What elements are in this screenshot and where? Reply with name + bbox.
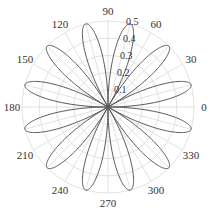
grid-spoke (47, 107, 108, 168)
angle-label: 180 (4, 101, 21, 113)
angle-label: 30 (186, 53, 198, 65)
radius-tick-labels: 0.10.20.30.40.5 (114, 16, 138, 95)
angle-label: 120 (52, 18, 69, 30)
grid-spoke (108, 107, 169, 168)
angle-label: 300 (148, 184, 165, 196)
radius-label: 0.1 (114, 84, 127, 95)
radius-label: 0.5 (126, 16, 138, 27)
radius-label: 0.4 (123, 33, 135, 44)
angle-label: 0 (201, 101, 207, 113)
angle-label: 210 (17, 149, 34, 161)
grid-spoke (47, 46, 108, 107)
angle-label: 240 (52, 184, 69, 196)
polar-plot-svg: 0306090120150180210240270300330 0.10.20.… (0, 0, 208, 220)
polar-chart: 0306090120150180210240270300330 0.10.20.… (0, 0, 208, 220)
angle-label: 60 (151, 18, 163, 30)
angle-label: 90 (103, 5, 115, 17)
radius-label: 0.2 (117, 67, 130, 78)
angle-label: 150 (17, 53, 34, 65)
radius-label: 0.3 (120, 50, 133, 61)
angle-label: 330 (183, 149, 200, 161)
angle-label: 270 (100, 197, 117, 209)
